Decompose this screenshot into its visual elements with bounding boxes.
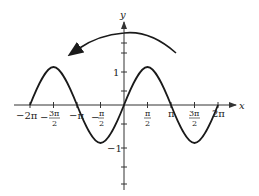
y-tick-label-neg1: −1	[107, 143, 122, 154]
x-tick-label-neg-pi2-den: 2	[99, 119, 104, 128]
x-tick-label-neg-3pi2-minus: −	[40, 112, 48, 123]
x-tick-label-neg-pi2-num: π	[99, 109, 104, 118]
x-tick-label-3pi2-num: 3π	[189, 109, 199, 118]
x-tick-label-2pi: 2π	[212, 108, 225, 119]
x-tick-label-3pi2-den: 2	[192, 119, 197, 128]
x-tick-label-neg-3pi2-den: 2	[52, 119, 57, 128]
x-tick-label-pi2-den: 2	[145, 119, 150, 128]
y-axis-label: y	[119, 9, 126, 20]
x-tick-label-neg-2pi: −2π	[16, 110, 38, 121]
x-tick-label-neg-3pi2-num: 3π	[49, 109, 59, 118]
x-tick-label-pi: π	[168, 108, 175, 119]
sine-graph: x y 1 −1 −2π − 3π 2 −π − π 2 π 2 π 3π 2 …	[0, 0, 259, 196]
x-axis-label: x	[239, 100, 245, 111]
x-tick-label-pi2-num: π	[145, 109, 150, 118]
x-tick-label-neg-pi: −π	[69, 110, 84, 121]
y-tick-label-1: 1	[113, 67, 119, 78]
